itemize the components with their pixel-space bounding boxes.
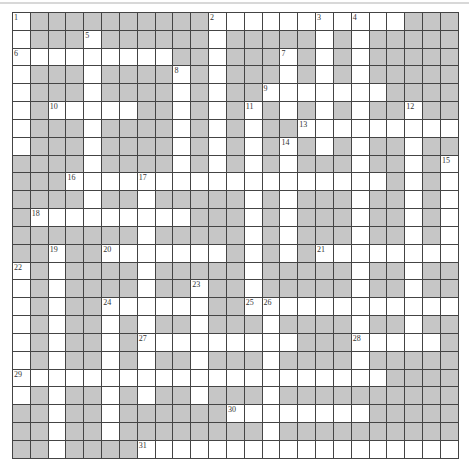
answer-cell[interactable] <box>208 440 226 458</box>
answer-cell[interactable] <box>404 315 422 333</box>
answer-cell[interactable] <box>351 30 369 48</box>
answer-cell[interactable] <box>333 297 351 315</box>
answer-cell[interactable] <box>190 351 208 369</box>
answer-cell[interactable] <box>262 386 280 404</box>
answer-cell[interactable] <box>369 333 387 351</box>
answer-cell[interactable] <box>351 404 369 422</box>
answer-cell[interactable] <box>279 226 297 244</box>
answer-cell[interactable] <box>440 208 458 226</box>
answer-cell[interactable] <box>48 208 66 226</box>
answer-cell[interactable] <box>48 297 66 315</box>
answer-cell[interactable] <box>244 226 262 244</box>
answer-cell[interactable]: 5 <box>83 30 101 48</box>
answer-cell[interactable] <box>244 208 262 226</box>
answer-cell[interactable]: 31 <box>137 440 155 458</box>
answer-cell[interactable] <box>83 101 101 119</box>
answer-cell[interactable] <box>190 386 208 404</box>
answer-cell[interactable] <box>369 83 387 101</box>
answer-cell[interactable] <box>137 315 155 333</box>
answer-cell[interactable] <box>172 101 190 119</box>
answer-cell[interactable] <box>315 172 333 190</box>
answer-cell[interactable] <box>422 440 440 458</box>
answer-cell[interactable] <box>190 244 208 262</box>
answer-cell[interactable] <box>262 404 280 422</box>
answer-cell[interactable] <box>262 422 280 440</box>
answer-cell[interactable] <box>208 155 226 173</box>
answer-cell[interactable] <box>440 297 458 315</box>
answer-cell[interactable] <box>386 297 404 315</box>
answer-cell[interactable] <box>262 440 280 458</box>
answer-cell[interactable] <box>404 190 422 208</box>
answer-cell[interactable] <box>244 369 262 387</box>
answer-cell[interactable] <box>208 369 226 387</box>
answer-cell[interactable] <box>83 119 101 137</box>
answer-cell[interactable]: 3 <box>315 12 333 30</box>
answer-cell[interactable]: 12 <box>404 101 422 119</box>
answer-cell[interactable] <box>244 279 262 297</box>
answer-cell[interactable] <box>83 83 101 101</box>
answer-cell[interactable] <box>386 119 404 137</box>
answer-cell[interactable] <box>101 369 119 387</box>
answer-cell[interactable] <box>65 208 83 226</box>
answer-cell[interactable] <box>279 155 297 173</box>
answer-cell[interactable] <box>226 440 244 458</box>
answer-cell[interactable] <box>30 369 48 387</box>
answer-cell[interactable] <box>101 315 119 333</box>
answer-cell[interactable] <box>262 12 280 30</box>
answer-cell[interactable] <box>386 12 404 30</box>
answer-cell[interactable] <box>119 172 137 190</box>
answer-cell[interactable] <box>172 369 190 387</box>
answer-cell[interactable] <box>83 369 101 387</box>
answer-cell[interactable] <box>12 279 30 297</box>
answer-cell[interactable] <box>262 351 280 369</box>
answer-cell[interactable] <box>404 226 422 244</box>
answer-cell[interactable] <box>83 65 101 83</box>
answer-cell[interactable] <box>351 155 369 173</box>
answer-cell[interactable]: 1 <box>12 12 30 30</box>
answer-cell[interactable] <box>83 190 101 208</box>
answer-cell[interactable] <box>48 369 66 387</box>
answer-cell[interactable] <box>244 172 262 190</box>
answer-cell[interactable] <box>244 262 262 280</box>
answer-cell[interactable]: 22 <box>12 262 30 280</box>
answer-cell[interactable]: 9 <box>262 83 280 101</box>
answer-cell[interactable]: 4 <box>351 12 369 30</box>
answer-cell[interactable]: 13 <box>297 119 315 137</box>
answer-cell[interactable] <box>244 12 262 30</box>
answer-cell[interactable] <box>351 440 369 458</box>
answer-cell[interactable] <box>137 226 155 244</box>
answer-cell[interactable] <box>351 279 369 297</box>
answer-cell[interactable] <box>369 172 387 190</box>
answer-cell[interactable]: 29 <box>12 369 30 387</box>
answer-cell[interactable] <box>404 297 422 315</box>
answer-cell[interactable] <box>315 369 333 387</box>
answer-cell[interactable] <box>12 101 30 119</box>
answer-cell[interactable] <box>48 48 66 66</box>
answer-cell[interactable] <box>369 244 387 262</box>
answer-cell[interactable] <box>333 404 351 422</box>
answer-cell[interactable] <box>333 244 351 262</box>
answer-cell[interactable] <box>12 333 30 351</box>
answer-cell[interactable] <box>155 297 173 315</box>
answer-cell[interactable] <box>83 155 101 173</box>
answer-cell[interactable] <box>369 119 387 137</box>
answer-cell[interactable] <box>83 137 101 155</box>
answer-cell[interactable] <box>440 226 458 244</box>
answer-cell[interactable] <box>262 333 280 351</box>
answer-cell[interactable] <box>279 12 297 30</box>
answer-cell[interactable] <box>351 351 369 369</box>
answer-cell[interactable] <box>315 101 333 119</box>
answer-cell[interactable] <box>137 48 155 66</box>
answer-cell[interactable] <box>333 12 351 30</box>
answer-cell[interactable] <box>440 172 458 190</box>
answer-cell[interactable] <box>208 172 226 190</box>
answer-cell[interactable] <box>65 48 83 66</box>
answer-cell[interactable] <box>12 65 30 83</box>
answer-cell[interactable] <box>351 137 369 155</box>
answer-cell[interactable] <box>172 208 190 226</box>
answer-cell[interactable] <box>315 65 333 83</box>
answer-cell[interactable] <box>244 440 262 458</box>
answer-cell[interactable] <box>101 333 119 351</box>
answer-cell[interactable]: 2 <box>208 12 226 30</box>
answer-cell[interactable] <box>279 440 297 458</box>
